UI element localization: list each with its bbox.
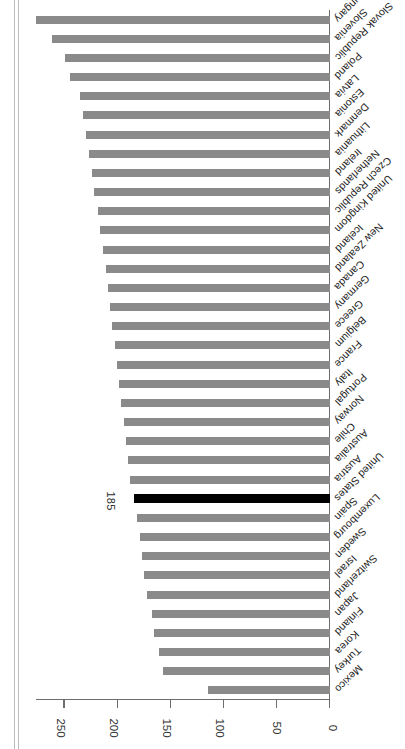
bar-row[interactable] [36, 87, 330, 106]
bar-row[interactable] [36, 163, 330, 182]
bar-row[interactable] [36, 298, 330, 317]
bar-row[interactable] [36, 393, 330, 412]
bar[interactable] [140, 533, 330, 541]
value-axis-tick-label: 250 [55, 718, 67, 737]
bar-row[interactable] [36, 681, 330, 700]
bar[interactable] [152, 610, 330, 618]
bar-row[interactable] [36, 508, 330, 527]
bar[interactable] [112, 322, 330, 330]
bar-row[interactable] [36, 106, 330, 125]
bar[interactable] [117, 361, 330, 369]
bar-row[interactable] [36, 451, 330, 470]
bar-row[interactable] [36, 604, 330, 623]
bar[interactable] [137, 514, 330, 522]
bar[interactable] [70, 73, 330, 81]
value-axis-tick [117, 700, 118, 708]
bar[interactable] [108, 284, 330, 292]
bar[interactable] [126, 437, 330, 445]
bar[interactable] [142, 552, 330, 560]
bar[interactable] [103, 246, 330, 254]
value-axis-tick [276, 700, 277, 708]
plot-area: 185 [36, 10, 330, 700]
bar[interactable] [154, 629, 330, 637]
bar-row[interactable] [36, 29, 330, 48]
bar[interactable] [52, 35, 330, 43]
bar-chart-figure: 050100150200250 MexicoTurkeyKoreaFinland… [0, 0, 405, 749]
bar-row[interactable] [36, 10, 330, 29]
bar[interactable] [110, 303, 330, 311]
category-axis-labels: MexicoTurkeyKoreaFinlandJapanSwitzerland… [333, 10, 405, 700]
value-axis-tick-label: 100 [214, 718, 226, 737]
bar-row[interactable] [36, 144, 330, 163]
chart-page: 050100150200250 MexicoTurkeyKoreaFinland… [0, 0, 405, 749]
bar-row[interactable] [36, 317, 330, 336]
bar[interactable] [98, 207, 330, 215]
value-axis-tick [170, 700, 171, 708]
bar[interactable] [94, 188, 330, 196]
bar-row[interactable] [36, 48, 330, 67]
bar-row[interactable] [36, 643, 330, 662]
bar[interactable] [159, 648, 330, 656]
value-axis-tick-label: 0 [327, 725, 339, 731]
bar[interactable] [144, 571, 330, 579]
bar-row[interactable] [36, 489, 330, 508]
bar[interactable] [124, 418, 330, 426]
bar-row[interactable] [36, 125, 330, 144]
bar-row[interactable] [36, 374, 330, 393]
bar-row[interactable] [36, 240, 330, 259]
value-axis-tick-label: 200 [108, 718, 120, 737]
bar-row[interactable] [36, 336, 330, 355]
value-axis-tick-label: 50 [271, 722, 283, 735]
bar[interactable] [119, 380, 330, 388]
bar-row[interactable] [36, 662, 330, 681]
bar[interactable] [80, 92, 330, 100]
bar-row[interactable] [36, 528, 330, 547]
bar-row[interactable] [36, 413, 330, 432]
value-axis-tick [63, 700, 64, 708]
bar[interactable] [147, 591, 330, 599]
bar[interactable] [130, 476, 330, 484]
value-axis-tick [329, 700, 330, 708]
bar-row[interactable] [36, 547, 330, 566]
bar-row[interactable] [36, 68, 330, 87]
bar-row[interactable] [36, 432, 330, 451]
bar-row[interactable] [36, 278, 330, 297]
bar-row[interactable] [36, 221, 330, 240]
bar-row[interactable] [36, 623, 330, 642]
bar[interactable] [115, 341, 330, 349]
bar-row[interactable] [36, 183, 330, 202]
bar-row[interactable] [36, 355, 330, 374]
bar-row[interactable] [36, 566, 330, 585]
bar-highlighted[interactable] [134, 494, 330, 503]
value-axis-tick [223, 700, 224, 708]
bar[interactable] [163, 667, 330, 675]
value-axis-tick-label: 150 [161, 718, 173, 737]
bar[interactable] [128, 456, 330, 464]
bar[interactable] [92, 169, 330, 177]
bar[interactable] [86, 131, 330, 139]
bar[interactable] [83, 111, 330, 119]
bar[interactable] [36, 16, 330, 24]
bar[interactable] [89, 150, 330, 158]
bar-rows: 185 [36, 10, 330, 700]
bar[interactable] [100, 226, 330, 234]
bar[interactable] [121, 399, 330, 407]
bar-row[interactable] [36, 470, 330, 489]
bar-row[interactable] [36, 259, 330, 278]
bar[interactable] [208, 686, 330, 694]
bar[interactable] [65, 54, 330, 62]
bar-row[interactable] [36, 202, 330, 221]
bar-row[interactable] [36, 585, 330, 604]
bar[interactable] [106, 265, 330, 273]
